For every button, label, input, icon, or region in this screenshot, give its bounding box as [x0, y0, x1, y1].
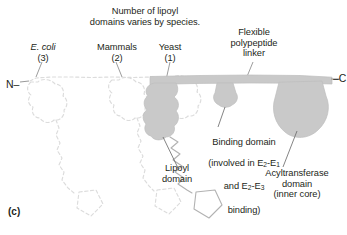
binding-domain-line4: binding) — [228, 205, 261, 215]
annotation-flexible-linker: Flexible polypeptide linker — [213, 27, 295, 59]
n-terminus-label: N– — [6, 78, 19, 90]
species-label-yeast-count: (1) — [144, 53, 196, 64]
species-label-yeast-name: Yeast — [144, 42, 196, 53]
c-terminus-label: –C — [333, 72, 346, 84]
leader-ecoli — [36, 62, 42, 77]
binding-domain-shape — [214, 83, 238, 107]
binding-domain-mid1: -E — [267, 158, 276, 168]
n-terminus-tick — [20, 81, 29, 82]
binding-domain-line1: Binding domain — [212, 137, 275, 147]
binding-domain-line2: (involved in E — [208, 158, 263, 168]
panel-letter: (c) — [8, 206, 20, 217]
ghost-linker-ecoli — [56, 120, 74, 193]
caption-title: Number of lipoyl domains varies by speci… — [60, 6, 230, 27]
ghost-pentagon-ecoli — [77, 190, 103, 216]
leader-mammals — [116, 62, 122, 77]
species-label-ecoli-name: E. coli — [12, 42, 74, 53]
lipoyl-domain-shape — [143, 83, 178, 140]
ghost-blob-ecoli-1 — [28, 80, 67, 123]
binding-domain-line3: and E — [224, 181, 248, 191]
ghost-blob-mammals-1 — [109, 78, 148, 121]
species-label-mammals-name: Mammals — [84, 42, 150, 53]
annotation-acyltransferase-domain: Acyltransferase domain (inner core) — [249, 168, 345, 200]
species-label-mammals-count: (2) — [84, 53, 150, 64]
figure-panel-c: Number of lipoyl domains varies by speci… — [0, 0, 347, 235]
species-label-ecoli-count: (3) — [12, 53, 74, 64]
leader-binding-domain — [218, 107, 225, 127]
ghost-pentagon-mammals — [155, 188, 181, 214]
